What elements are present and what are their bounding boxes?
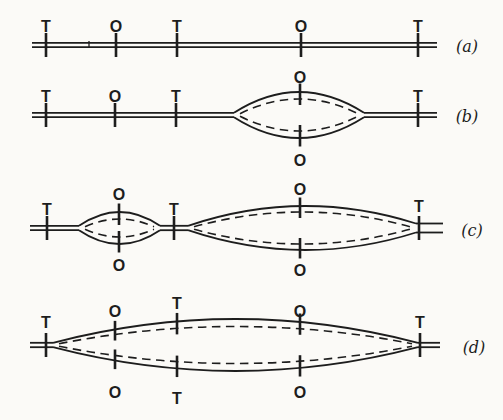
terminus-label: T bbox=[41, 314, 51, 331]
terminus-label: T bbox=[413, 88, 423, 105]
diagram-canvas: TOTOT(a)TOTTOO(b)TTTOOOO(c)TTOOTTOO(d) bbox=[0, 0, 503, 420]
terminus-label: T bbox=[41, 18, 51, 35]
origin-label: O bbox=[109, 88, 121, 105]
terminus-label: T bbox=[169, 201, 179, 218]
terminus-label: T bbox=[413, 18, 423, 35]
origin-label: O bbox=[109, 303, 121, 320]
origin-label: O bbox=[294, 262, 306, 279]
terminus-label: T bbox=[42, 201, 52, 218]
terminus-label: T bbox=[172, 18, 182, 35]
row-label-c: (c) bbox=[461, 221, 482, 240]
origin-label: O bbox=[109, 384, 121, 401]
terminus-label: T bbox=[171, 88, 181, 105]
origin-label: O bbox=[113, 186, 125, 203]
origin-label: O bbox=[295, 18, 307, 35]
origin-label: O bbox=[110, 18, 122, 35]
origin-label: O bbox=[294, 384, 306, 401]
row-label-a: (a) bbox=[456, 37, 478, 56]
terminus-label: T bbox=[41, 88, 51, 105]
terminus-label: T bbox=[414, 198, 424, 215]
origin-label: O bbox=[294, 303, 306, 320]
row-label-d: (d) bbox=[463, 338, 486, 357]
origin-label: O bbox=[294, 69, 306, 86]
replication-diagram: TOTOT(a)TOTTOO(b)TTTOOOO(c)TTOOTTOO(d) bbox=[0, 0, 503, 420]
row-label-b: (b) bbox=[456, 107, 479, 126]
terminus-label: T bbox=[172, 295, 182, 312]
terminus-label: T bbox=[172, 390, 182, 407]
origin-label: O bbox=[113, 257, 125, 274]
terminus-label: T bbox=[415, 314, 425, 331]
origin-label: O bbox=[294, 152, 306, 169]
origin-label: O bbox=[294, 181, 306, 198]
